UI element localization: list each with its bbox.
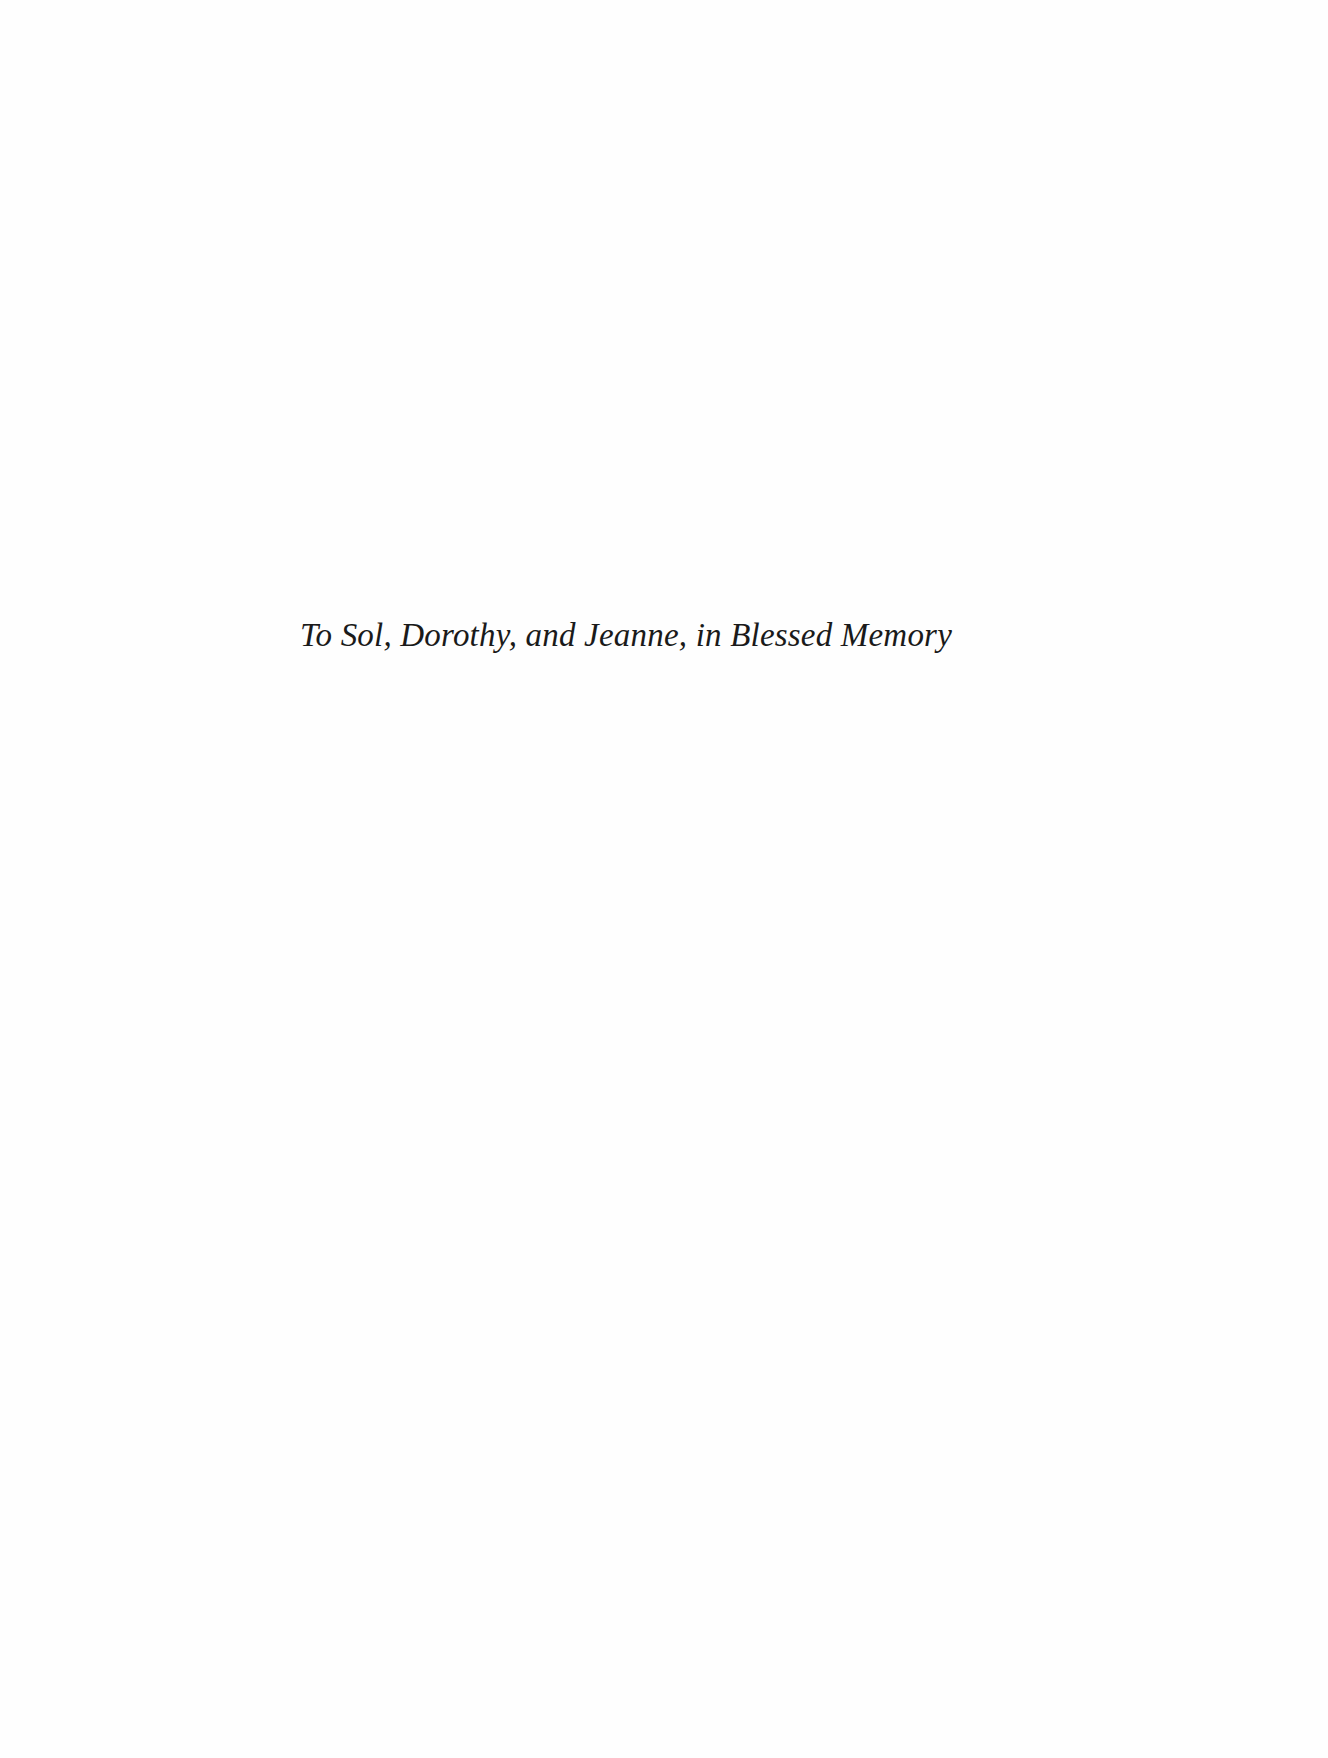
dedication-text: To Sol, Dorothy, and Jeanne, in Blessed …	[0, 613, 1252, 657]
document-page: To Sol, Dorothy, and Jeanne, in Blessed …	[0, 0, 1328, 1758]
